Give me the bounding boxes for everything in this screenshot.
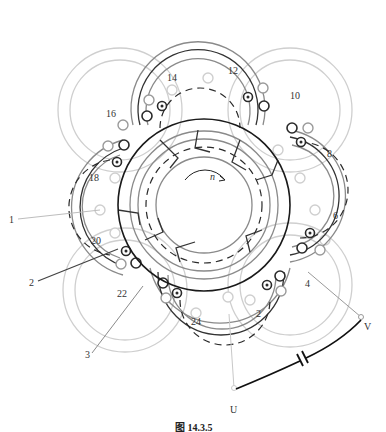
slot-label-12: 12 (228, 65, 238, 76)
lead-label-3: 3 (85, 349, 90, 360)
figure-caption: 图 14.3.5 (175, 422, 213, 432)
coil-group-top (131, 42, 269, 128)
terminal-label-v: V (364, 321, 372, 332)
slot-label-18: 18 (89, 172, 99, 183)
slot-label-16: 16 (106, 108, 116, 119)
slot-label-22: 22 (117, 288, 127, 299)
rotor-outline (118, 119, 290, 291)
slot-label-6: 6 (333, 210, 338, 221)
lead-lines (18, 210, 143, 353)
slot-label-10: 10 (290, 90, 300, 101)
coil-group-right (287, 123, 348, 262)
slot-label-20: 20 (91, 235, 101, 246)
slot-labels: 14 12 10 16 8 18 6 20 4 22 24 2 (89, 65, 338, 327)
stator-rings (118, 130, 278, 279)
slot-label-4: 4 (305, 278, 310, 289)
slot-label-14: 14 (167, 72, 177, 83)
rotation-label: n (210, 171, 215, 182)
terminal-label-u: U (230, 404, 238, 415)
rotation-arrow-icon (185, 170, 225, 181)
slot-label-8: 8 (327, 148, 332, 159)
lead-label-2: 2 (29, 277, 34, 288)
capacitor-icon (236, 320, 361, 389)
motor-winding-diagram: n 14 12 10 16 8 18 6 20 4 22 24 2 1 2 3 … (0, 0, 386, 432)
lead-label-1: 1 (9, 214, 14, 225)
slot-label-2: 2 (256, 308, 261, 319)
coil-group-bottom (150, 268, 290, 345)
slot-label-24: 24 (191, 316, 201, 327)
auxiliary-coils (58, 48, 352, 352)
